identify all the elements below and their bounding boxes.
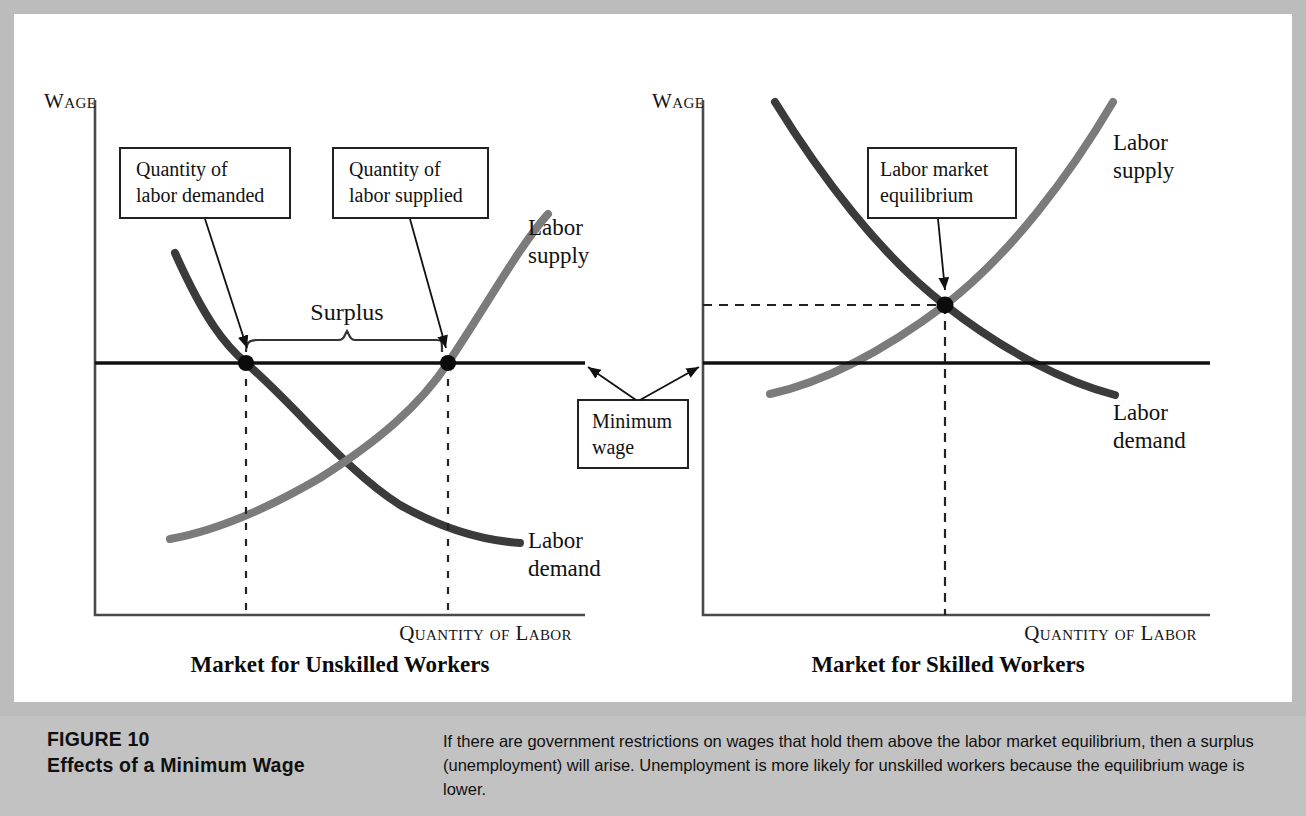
right-callout-equilibrium-arrow <box>938 219 945 290</box>
figure-caption-heading: FIGURE 10 Effects of a Minimum Wage <box>47 726 407 778</box>
left-labor-supply-label-line1: Labor <box>528 215 583 240</box>
figure-number: FIGURE 10 <box>47 726 407 752</box>
minimum-wage-callout: Minimum wage <box>578 367 699 468</box>
minimum-wage-line2: wage <box>592 436 634 459</box>
right-panel-subtitle: Market for Skilled Workers <box>811 652 1084 677</box>
charts-canvas: Wage Quantity of Labor Surplus Quantity … <box>0 0 1306 716</box>
right-labor-demand-label-line2: demand <box>1113 428 1186 453</box>
right-callout-equilibrium-line2: equilibrium <box>880 184 974 207</box>
left-callout-supplied-line1: Quantity of <box>349 158 441 181</box>
left-callout-demanded-line1: Quantity of <box>136 158 228 181</box>
left-labor-supply-label-line2: supply <box>528 243 590 268</box>
minimum-wage-arrow-right <box>640 367 699 400</box>
minimum-wage-line1: Minimum <box>592 410 672 432</box>
right-labor-supply-label-line2: supply <box>1113 158 1175 183</box>
right-x-axis-label: Quantity of Labor <box>1024 621 1197 645</box>
minimum-wage-arrow-left <box>588 367 636 400</box>
left-x-axis-label: Quantity of Labor <box>399 621 572 645</box>
right-labor-supply-label-line1: Labor <box>1113 130 1168 155</box>
left-callout-demanded-line2: labor demanded <box>136 184 264 206</box>
figure-caption-text: If there are government restrictions on … <box>443 729 1273 801</box>
right-labor-demand-curve <box>775 102 1115 395</box>
left-quantity-demanded-point <box>238 355 254 371</box>
left-surplus-brace <box>246 331 442 352</box>
left-callout-supplied-line2: labor supplied <box>349 184 463 207</box>
right-panel: Wage Quantity of Labor Labor market equi… <box>652 89 1210 677</box>
left-labor-supply-curve <box>170 214 548 539</box>
right-labor-demand-label-line1: Labor <box>1113 400 1168 425</box>
right-y-axis-label: Wage <box>652 89 704 113</box>
figure-page: Wage Quantity of Labor Surplus Quantity … <box>0 0 1306 816</box>
left-labor-demand-label-line2: demand <box>528 556 601 581</box>
left-callout-supplied-arrow <box>410 219 446 348</box>
figure-title: Effects of a Minimum Wage <box>47 752 407 778</box>
right-callout-equilibrium-line1: Labor market <box>880 158 989 180</box>
left-quantity-supplied-point <box>440 355 456 371</box>
left-y-axis-label: Wage <box>44 89 96 113</box>
left-surplus-label: Surplus <box>310 299 383 325</box>
right-equilibrium-point <box>937 297 954 314</box>
left-panel: Wage Quantity of Labor Surplus Quantity … <box>44 89 601 677</box>
left-labor-demand-label-line1: Labor <box>528 528 583 553</box>
left-panel-subtitle: Market for Unskilled Workers <box>191 652 490 677</box>
left-labor-demand-curve <box>175 253 520 543</box>
